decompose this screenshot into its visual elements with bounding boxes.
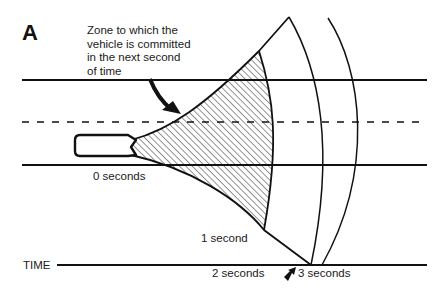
annotation-line: Zone to which the	[87, 24, 191, 38]
diagram-canvas	[0, 0, 445, 294]
label-3-seconds: 3 seconds	[298, 267, 350, 281]
diagram-figure: A Zone to which the vehicle is committed…	[0, 0, 445, 294]
panel-letter: A	[22, 22, 38, 44]
vehicle-icon	[75, 135, 136, 156]
pointer-arrow-icon	[284, 267, 296, 281]
arc-2-seconds	[289, 17, 323, 265]
annotation-text: Zone to which the vehicle is committed i…	[87, 24, 191, 78]
annotation-line: of time	[87, 65, 191, 79]
annotation-line: in the next second	[87, 51, 191, 65]
time-axis-label: TIME	[23, 259, 50, 273]
annotation-line: vehicle is committed	[87, 38, 191, 52]
arc-3-seconds	[322, 18, 358, 265]
label-2-seconds: 2 seconds	[212, 267, 264, 281]
label-1-second: 1 second	[201, 232, 248, 246]
label-0-seconds: 0 seconds	[93, 170, 145, 184]
